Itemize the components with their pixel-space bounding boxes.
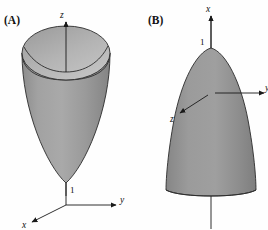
- math-figure-svg: (A) z 1 y x (B): [0, 0, 268, 230]
- panel-b-z-axis-label: x: [205, 4, 211, 14]
- panel-b-x-axis-label: z: [169, 114, 174, 124]
- panel-a-x-axis: [32, 205, 66, 222]
- panel-a-label: (A): [4, 14, 20, 27]
- panel-a-z-axis-label: z: [59, 10, 64, 20]
- panel-a-z-tick-1: 1: [70, 185, 75, 195]
- panel-b-z-tick-1: 1: [200, 37, 205, 47]
- panel-a-x-axis-label: x: [21, 220, 27, 230]
- panel-b-paraboloid-body: [166, 48, 256, 196]
- panel-a-y-axis-label: y: [119, 195, 125, 205]
- figure-container: (A) z 1 y x (B): [0, 0, 268, 230]
- panel-b-label: (B): [148, 14, 164, 27]
- panel-a: (A) z 1 y x: [4, 10, 125, 230]
- panel-b-y-axis-label: y: [264, 83, 268, 93]
- panel-b: (B) x 1 y z: [148, 4, 268, 229]
